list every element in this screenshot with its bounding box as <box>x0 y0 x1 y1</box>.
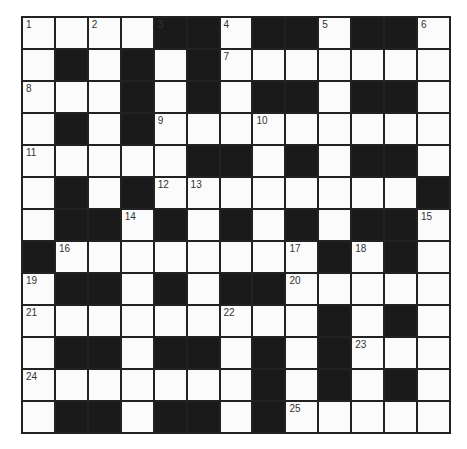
grid-cell[interactable] <box>253 242 284 272</box>
grid-cell[interactable] <box>418 306 449 336</box>
grid-cell[interactable]: 22 <box>221 306 252 336</box>
grid-cell[interactable] <box>89 306 120 336</box>
grid-cell[interactable]: 20 <box>286 274 317 304</box>
grid-cell[interactable] <box>319 210 350 240</box>
grid-cell[interactable] <box>23 50 54 80</box>
grid-cell[interactable] <box>385 178 416 208</box>
grid-cell[interactable] <box>122 274 153 304</box>
grid-cell[interactable] <box>155 306 186 336</box>
grid-cell[interactable]: 16 <box>56 242 87 272</box>
grid-cell[interactable] <box>385 114 416 144</box>
grid-cell[interactable] <box>89 50 120 80</box>
grid-cell[interactable] <box>286 338 317 368</box>
grid-cell[interactable]: 23 <box>352 338 383 368</box>
grid-cell[interactable] <box>122 146 153 176</box>
grid-cell[interactable] <box>352 402 383 432</box>
grid-cell[interactable] <box>352 114 383 144</box>
grid-cell[interactable]: 14 <box>122 210 153 240</box>
grid-cell[interactable] <box>89 370 120 400</box>
grid-cell[interactable] <box>352 370 383 400</box>
grid-cell[interactable] <box>89 82 120 112</box>
grid-cell[interactable] <box>319 50 350 80</box>
grid-cell[interactable]: 18 <box>352 242 383 272</box>
grid-cell[interactable]: 7 <box>221 50 252 80</box>
grid-cell[interactable] <box>385 338 416 368</box>
grid-cell[interactable]: 24 <box>23 370 54 400</box>
grid-cell[interactable] <box>56 82 87 112</box>
grid-cell[interactable] <box>89 242 120 272</box>
grid-cell[interactable]: 21 <box>23 306 54 336</box>
grid-cell[interactable] <box>221 242 252 272</box>
grid-cell[interactable] <box>253 306 284 336</box>
grid-cell[interactable] <box>122 18 153 48</box>
grid-cell[interactable]: 12 <box>155 178 186 208</box>
grid-cell[interactable] <box>221 178 252 208</box>
grid-cell[interactable] <box>188 210 219 240</box>
grid-cell[interactable] <box>253 178 284 208</box>
grid-cell[interactable] <box>188 370 219 400</box>
grid-cell[interactable] <box>286 114 317 144</box>
grid-cell[interactable] <box>286 370 317 400</box>
grid-cell[interactable] <box>418 370 449 400</box>
grid-cell[interactable] <box>319 178 350 208</box>
grid-cell[interactable] <box>418 50 449 80</box>
grid-cell[interactable] <box>155 82 186 112</box>
grid-cell[interactable] <box>155 50 186 80</box>
grid-cell[interactable] <box>221 402 252 432</box>
grid-cell[interactable] <box>385 402 416 432</box>
grid-cell[interactable] <box>89 178 120 208</box>
grid-cell[interactable] <box>286 306 317 336</box>
grid-cell[interactable]: 19 <box>23 274 54 304</box>
grid-cell[interactable] <box>352 50 383 80</box>
grid-cell[interactable] <box>418 114 449 144</box>
grid-cell[interactable] <box>319 402 350 432</box>
grid-cell[interactable] <box>352 306 383 336</box>
grid-cell[interactable] <box>23 210 54 240</box>
grid-cell[interactable]: 8 <box>23 82 54 112</box>
grid-cell[interactable] <box>56 370 87 400</box>
grid-cell[interactable] <box>286 50 317 80</box>
grid-cell[interactable] <box>122 370 153 400</box>
grid-cell[interactable] <box>122 402 153 432</box>
grid-cell[interactable] <box>188 114 219 144</box>
grid-cell[interactable] <box>188 274 219 304</box>
grid-cell[interactable]: 1 <box>23 18 54 48</box>
grid-cell[interactable] <box>56 306 87 336</box>
grid-cell[interactable] <box>23 338 54 368</box>
grid-cell[interactable] <box>155 146 186 176</box>
grid-cell[interactable]: 9 <box>155 114 186 144</box>
grid-cell[interactable]: 11 <box>23 146 54 176</box>
grid-cell[interactable] <box>122 242 153 272</box>
grid-cell[interactable] <box>253 210 284 240</box>
grid-cell[interactable]: 25 <box>286 402 317 432</box>
grid-cell[interactable] <box>352 274 383 304</box>
grid-cell[interactable] <box>188 306 219 336</box>
grid-cell[interactable]: 17 <box>286 242 317 272</box>
grid-cell[interactable] <box>418 146 449 176</box>
grid-cell[interactable] <box>253 146 284 176</box>
grid-cell[interactable] <box>418 82 449 112</box>
grid-cell[interactable]: 13 <box>188 178 219 208</box>
grid-cell[interactable] <box>319 82 350 112</box>
grid-cell[interactable] <box>221 338 252 368</box>
grid-cell[interactable]: 6 <box>418 18 449 48</box>
grid-cell[interactable] <box>221 82 252 112</box>
grid-cell[interactable] <box>385 274 416 304</box>
grid-cell[interactable] <box>418 242 449 272</box>
grid-cell[interactable] <box>89 146 120 176</box>
grid-cell[interactable] <box>385 50 416 80</box>
grid-cell[interactable] <box>23 114 54 144</box>
grid-cell[interactable]: 2 <box>89 18 120 48</box>
grid-cell[interactable]: 10 <box>253 114 284 144</box>
grid-cell[interactable] <box>23 402 54 432</box>
grid-cell[interactable] <box>155 242 186 272</box>
grid-cell[interactable] <box>188 242 219 272</box>
grid-cell[interactable] <box>352 178 383 208</box>
grid-cell[interactable] <box>319 146 350 176</box>
grid-cell[interactable] <box>155 370 186 400</box>
grid-cell[interactable] <box>56 146 87 176</box>
grid-cell[interactable] <box>418 274 449 304</box>
grid-cell[interactable] <box>319 274 350 304</box>
grid-cell[interactable]: 15 <box>418 210 449 240</box>
grid-cell[interactable]: 4 <box>221 18 252 48</box>
